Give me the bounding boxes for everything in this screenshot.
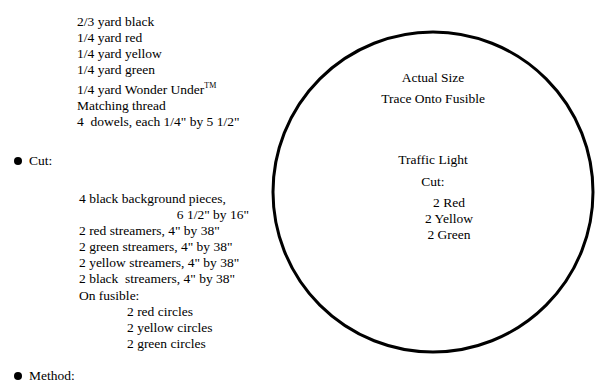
bullet-dot-icon xyxy=(14,157,22,165)
pattern-circle-outline xyxy=(271,30,595,354)
materials-line: 1/4 yard yellow xyxy=(77,46,240,62)
pattern-page: 2/3 yard black 1/4 yard red 1/4 yard yel… xyxy=(0,0,611,387)
cut-item: 2 green streamers, 4" by 38" xyxy=(79,239,249,255)
cut-subheading-on-fusible: On fusible: xyxy=(79,288,249,304)
bullet-dot-icon xyxy=(14,372,22,380)
materials-line: 2/3 yard black xyxy=(77,14,240,30)
section-heading-method-label: Method: xyxy=(29,368,75,384)
trademark-symbol: TM xyxy=(204,81,216,90)
materials-line: 1/4 yard red xyxy=(77,30,240,46)
section-heading-method: Method: xyxy=(14,368,75,384)
materials-line: Matching thread xyxy=(77,98,240,114)
section-heading-cut: Cut: xyxy=(14,153,52,169)
cut-item-dimension: 6 1/2" by 16" xyxy=(79,207,249,223)
cut-item: 4 black background pieces, xyxy=(79,191,249,207)
cut-item-fusible: 2 yellow circles xyxy=(79,320,249,336)
cut-item: 2 yellow streamers, 4" by 38" xyxy=(79,255,249,271)
materials-line: 4 dowels, each 1/4" by 5 1/2" xyxy=(77,114,240,130)
materials-line: 1/4 yard green xyxy=(77,62,240,78)
materials-line-wonder-under: 1/4 yard Wonder UnderTM xyxy=(77,78,240,98)
cut-item-fusible: 2 green circles xyxy=(79,336,249,352)
cut-item-list: 4 black background pieces, 6 1/2" by 16"… xyxy=(79,191,249,352)
cut-item: 2 red streamers, 4" by 38" xyxy=(79,223,249,239)
materials-list: 2/3 yard black 1/4 yard red 1/4 yard yel… xyxy=(77,14,240,130)
cut-item-fusible: 2 red circles xyxy=(79,304,249,320)
cut-item: 2 black streamers, 4" by 38" xyxy=(79,271,249,287)
section-heading-cut-label: Cut: xyxy=(29,153,52,169)
materials-line-text: 1/4 yard Wonder Under xyxy=(77,82,204,97)
